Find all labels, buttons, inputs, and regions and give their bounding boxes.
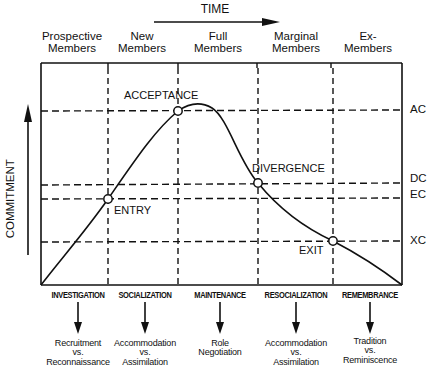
task-line3: Assimilation [105,358,185,367]
commitment-curve [41,104,402,285]
task-remembrance: Tradition vs. Reminiscence [330,337,410,365]
stage-label-line2: Members [178,43,258,55]
divergence-point [254,179,262,187]
stage-label-line1: Full [178,31,258,43]
task-maintenance: Role Negotiation [180,339,260,358]
ec-level-label: EC [410,189,426,201]
stage-full-members: Full Members [178,31,258,54]
stage-ex-members: Ex- Members [328,31,408,54]
process-resocialization: RESOCIALIZATION [261,291,331,300]
stage-label-line2: Members [102,43,182,55]
process-arrows [74,302,374,334]
entry-label: ENTRY [114,205,151,216]
task-socialization: Accommodation vs. Assimilation [105,339,185,367]
dc-level-label: DC [410,173,427,185]
process-investigation: INVESTIGATION [43,291,113,300]
group-socialization-diagram: TIME COMMITMENT Prospective Members New … [0,0,437,378]
xc-line [41,241,402,242]
acceptance-point [174,107,182,115]
stage-label-line1: Prospective [32,31,112,43]
stage-label-line1: Marginal [256,31,336,43]
stage-label-line2: Members [328,43,408,55]
arrow-down-icon [74,302,82,334]
diagram-graphics [0,0,437,378]
arrow-down-icon [216,302,224,334]
ec-line [41,198,402,199]
stage-prospective-members: Prospective Members [32,31,112,54]
divergence-label: DIVERGENCE [252,163,325,174]
time-axis-label: TIME [185,3,245,15]
task-line3: Assimilation [256,358,336,367]
arrow-down-icon [292,302,300,334]
task-line2: Negotiation [180,348,260,357]
ac-line [41,110,402,111]
exit-label: EXIT [299,245,323,256]
ac-level-label: AC [410,104,426,116]
chart-frame [41,63,402,285]
process-remembrance: REMEMBRANCE [335,291,405,300]
entry-point [104,195,112,203]
task-resocialization: Accommodation vs. Assimilation [256,339,336,367]
criterion-lines [41,110,402,242]
stage-new-members: New Members [102,31,182,54]
commitment-axis-label: COMMITMENT [5,159,17,239]
stage-label-line1: Ex- [328,31,408,43]
stage-label-line2: Members [256,43,336,55]
xc-level-label: XC [410,235,426,247]
time-arrow [154,18,280,26]
exit-point [329,237,337,245]
arrow-down-icon [141,302,149,334]
stage-label-line2: Members [32,43,112,55]
process-maintenance: MAINTENANCE [185,291,255,300]
process-socialization: SOCIALIZATION [110,291,180,300]
acceptance-label: ACCEPTANCE [124,90,198,101]
commitment-arrow [24,104,32,255]
task-line3: Reminiscence [330,356,410,365]
stage-marginal-members: Marginal Members [256,31,336,54]
dc-line [41,183,402,185]
arrow-down-icon [366,302,374,334]
stage-label-line1: New [102,31,182,43]
